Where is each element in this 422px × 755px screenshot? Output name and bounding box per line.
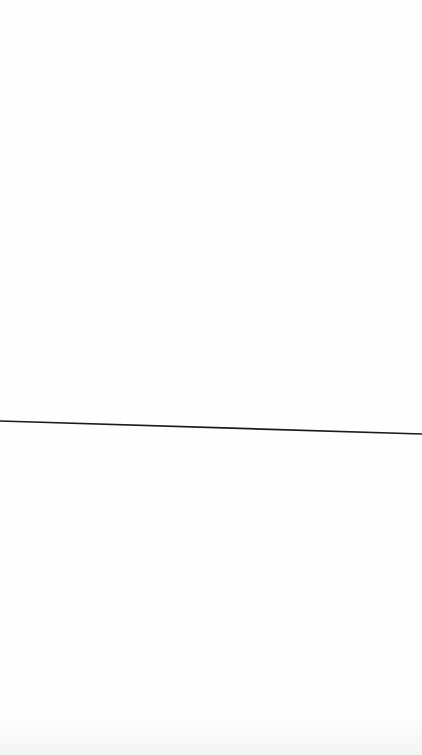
line-drawing [0, 0, 422, 755]
sloped-line [0, 421, 422, 434]
blank-canvas [0, 0, 422, 755]
bottom-noise-texture [0, 715, 422, 755]
